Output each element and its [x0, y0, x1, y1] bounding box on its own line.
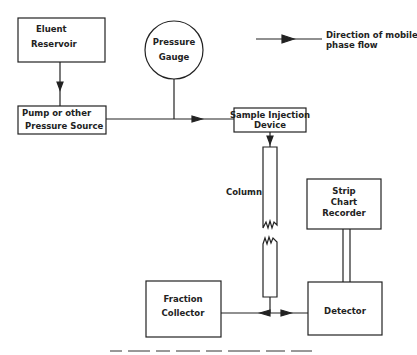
gauge-label-2: Gauge [159, 52, 190, 62]
pressure-gauge-circle [145, 21, 203, 79]
lc-system-diagram: Eluent Reservoir Pump or other Pressure … [0, 0, 417, 355]
recorder-label-3: Recorder [322, 208, 366, 218]
gauge-label-1: Pressure [153, 37, 196, 47]
fraction-label-1: Fraction [163, 294, 202, 304]
legend-label-1: Direction of mobile [326, 30, 417, 40]
pump-label-2: Pressure Source [25, 121, 104, 131]
eluent-label-2: Reservoir [31, 39, 78, 49]
pump-label-1: Pump or other [22, 108, 92, 118]
recorder-label-2: Chart [331, 197, 357, 207]
recorder-label-1: Strip [332, 186, 355, 196]
detector-label: Detector [324, 306, 367, 316]
legend-label-2: phase flow [326, 40, 378, 50]
injection-label-2: Device [254, 120, 286, 130]
fraction-label-2: Collector [162, 308, 206, 318]
injection-label-1: Sample Injection [230, 110, 310, 120]
column-label: Column [226, 187, 262, 197]
eluent-label-1: Eluent [36, 24, 67, 34]
